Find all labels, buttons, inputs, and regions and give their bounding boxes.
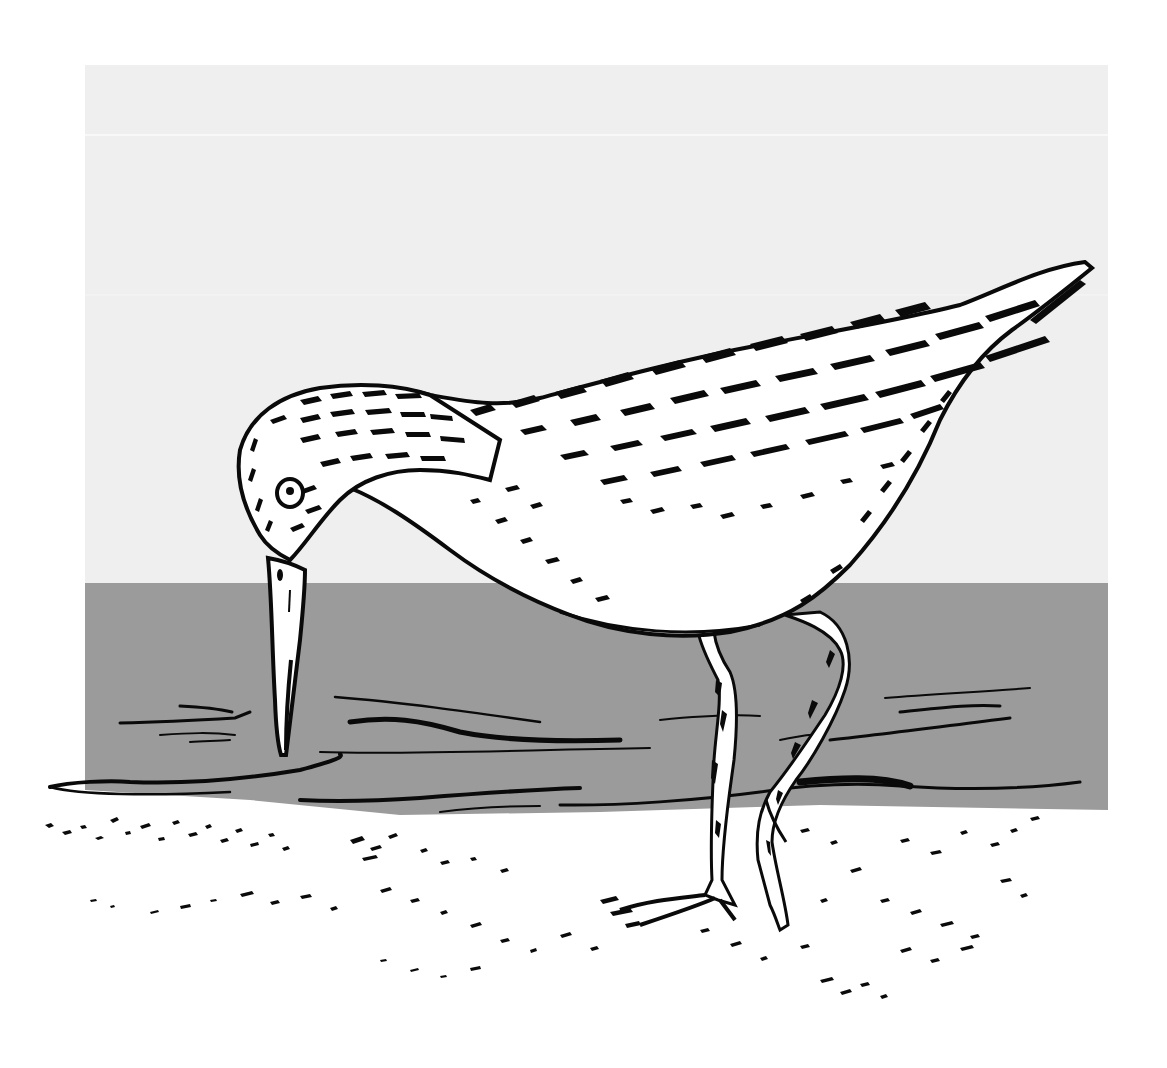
sand-speckles bbox=[45, 816, 1040, 999]
bird-eye bbox=[277, 479, 303, 507]
sandpiper-illustration bbox=[0, 0, 1167, 1068]
illustration-scene: Sandpiper (shorebird) probing mud with l… bbox=[0, 0, 1167, 1068]
